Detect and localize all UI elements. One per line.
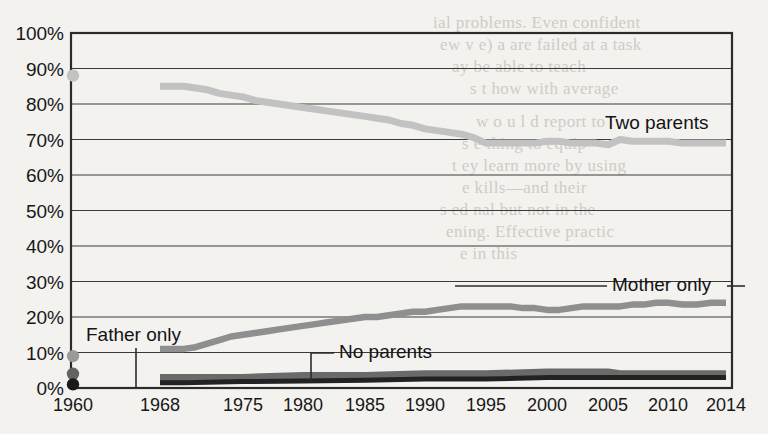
- markers-1960-layer: [67, 69, 79, 390]
- y-tick-label: 20%: [26, 307, 64, 328]
- series-label-two-parents: Two parents: [605, 112, 709, 133]
- series-label-mother-only: Mother only: [612, 274, 712, 295]
- x-tick-label: 1980: [283, 395, 323, 415]
- marker-1960-mother-only: [67, 350, 79, 362]
- line-chart: 0%10%20%30%40%50%60%70%80%90%100% 196019…: [0, 0, 768, 434]
- series-label-no-parents: No parents: [339, 341, 432, 362]
- y-tick-label: 90%: [26, 59, 64, 80]
- y-tick-label: 40%: [26, 236, 64, 257]
- y-tick-label: 100%: [15, 23, 64, 44]
- chart-svg: 0%10%20%30%40%50%60%70%80%90%100% 196019…: [0, 0, 768, 434]
- y-tick-label: 10%: [26, 343, 64, 364]
- series-line-mother-only: [160, 303, 726, 349]
- x-tick-label: 1968: [140, 395, 180, 415]
- series-annotations: Two parentsMother onlyFather onlyNo pare…: [86, 112, 712, 362]
- x-tick-label: 1985: [345, 395, 385, 415]
- y-tick-label: 70%: [26, 130, 64, 151]
- x-tick-label: 2010: [648, 395, 688, 415]
- marker-1960-no-parents: [67, 378, 79, 390]
- x-tick-label: 1990: [405, 395, 445, 415]
- y-tick-label: 80%: [26, 94, 64, 115]
- marker-1960-two-parents: [67, 69, 79, 81]
- x-tick-label: 2014: [706, 395, 746, 415]
- series-label-father-only: Father only: [86, 324, 182, 345]
- y-tick-label: 30%: [26, 272, 64, 293]
- marker-1960-father-only: [67, 368, 79, 380]
- x-tick-label: 1995: [466, 395, 506, 415]
- y-tick-label: 50%: [26, 201, 64, 222]
- y-axis-tick-labels: 0%10%20%30%40%50%60%70%80%90%100%: [15, 23, 64, 399]
- x-tick-label: 2000: [527, 395, 567, 415]
- x-tick-label: 1975: [223, 395, 263, 415]
- x-axis-tick-labels: 1960196819751980198519901995200020052010…: [53, 395, 746, 415]
- x-tick-label: 1960: [53, 395, 93, 415]
- x-tick-label: 2005: [588, 395, 628, 415]
- chart-page: ial problems. Even confidentew v e) a ar…: [0, 0, 768, 434]
- y-tick-label: 60%: [26, 165, 64, 186]
